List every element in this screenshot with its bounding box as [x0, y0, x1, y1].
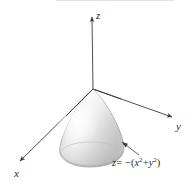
x-axis-label: x	[14, 168, 19, 179]
paraboloid-highlight	[58, 95, 106, 159]
surface-equation-label: z= −(x2+y2)	[112, 157, 160, 168]
y-axis-label: y	[176, 121, 181, 132]
z-axis-label: z	[96, 10, 100, 21]
equation-close-paren: )	[157, 157, 161, 168]
figure-canvas	[0, 0, 193, 187]
equation-leader	[122, 142, 139, 155]
paraboloid-figure: z y x z= −(x2+y2)	[0, 0, 193, 187]
z-axis-line	[92, 17, 93, 89]
equation-relation: = −	[116, 157, 131, 168]
paraboloid-surface	[58, 89, 124, 167]
